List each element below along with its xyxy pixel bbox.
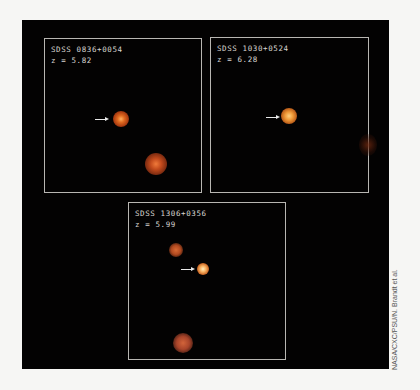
redshift-label: z = 6.28 — [217, 55, 258, 64]
quasar-source — [281, 108, 297, 124]
redshift-label: z = 5.99 — [135, 220, 176, 229]
quasar-source — [197, 263, 209, 275]
arrow-icon — [181, 269, 193, 270]
image-credit: NASA/CXC/PSU/N. Brandt et al. — [391, 269, 398, 370]
quasar-panel-1306: SDSS 1306+0356 z = 5.99 — [128, 202, 286, 360]
quasar-source — [113, 111, 129, 127]
quasar-name: SDSS 1030+0524 — [217, 44, 289, 53]
image-panel: SDSS 0836+0054 z = 5.82 SDSS 1030+0524 z… — [22, 20, 389, 369]
faint-source — [359, 134, 377, 156]
background-source — [169, 243, 183, 257]
arrow-icon — [95, 119, 107, 120]
background-source — [145, 153, 167, 175]
quasar-name: SDSS 1306+0356 — [135, 209, 207, 218]
redshift-label: z = 5.82 — [51, 56, 92, 65]
background-source — [173, 333, 193, 353]
arrow-icon — [266, 117, 278, 118]
quasar-panel-0836: SDSS 0836+0054 z = 5.82 — [44, 38, 202, 193]
quasar-panel-1030: SDSS 1030+0524 z = 6.28 — [210, 37, 369, 193]
quasar-name: SDSS 0836+0054 — [51, 45, 123, 54]
